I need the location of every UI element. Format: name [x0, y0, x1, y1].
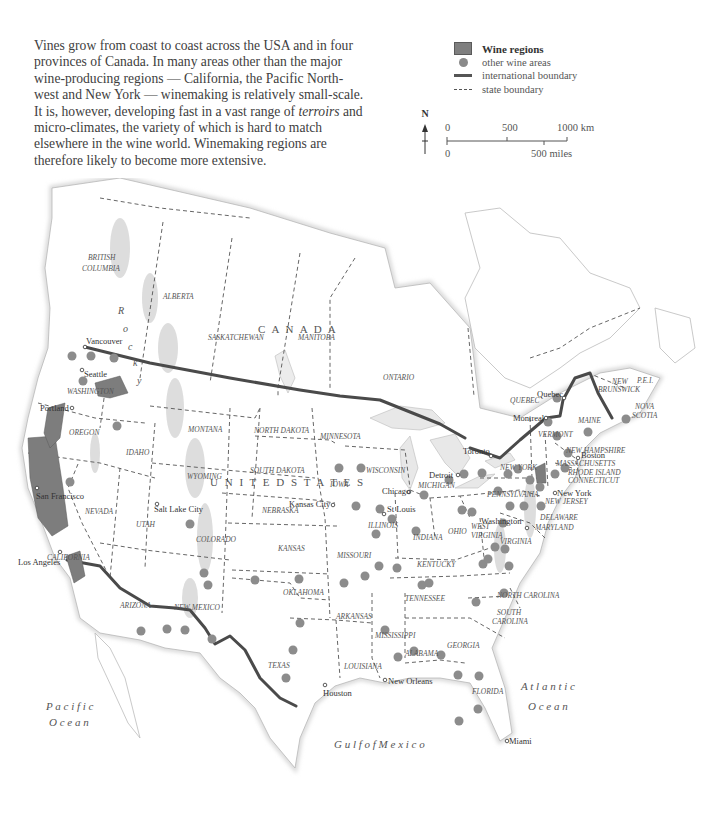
wine-area-dot-icon [459, 58, 468, 67]
state-label: SOUTH [497, 608, 522, 617]
city-marker: Miami [505, 736, 532, 746]
scale-bar-line-icon [445, 134, 575, 148]
city-dot-icon [456, 473, 460, 477]
province-label: SASKATCHEWAN [208, 333, 265, 342]
city-label: Toronto [463, 446, 490, 456]
province-label: MANITOBA [297, 333, 335, 342]
state-label: NEW HAMPSHIRE [565, 446, 626, 455]
scale-mile-500: 500 miles [531, 148, 572, 159]
state-label: MASSACHUSETTS [555, 459, 615, 468]
state-label: GEORGIA [447, 641, 480, 650]
province-label: ONTARIO [383, 373, 415, 382]
city-label: Quebec [537, 389, 563, 399]
state-label: KANSAS [277, 544, 305, 553]
legend-label: international boundary [482, 70, 577, 81]
city-marker: Portland [40, 403, 74, 413]
legend-label: state boundary [482, 84, 544, 95]
state-label: VIRGINIA [471, 531, 503, 540]
north-america-wine-map: VancouverSeattlePortlandSan FranciscoLos… [0, 178, 704, 830]
legend-item-other-wine-areas: other wine areas [452, 56, 577, 70]
province-label: BRITISH [88, 253, 116, 262]
state-label: MAINE [577, 416, 601, 425]
city-dot-icon [382, 512, 386, 516]
state-label: CAROLINA [492, 617, 528, 626]
state-label: MICHIGAN [417, 481, 456, 490]
city-marker: Montreal [513, 413, 548, 423]
rocky-mountains-label: o [123, 323, 128, 334]
state-label: VERMONT [538, 430, 573, 439]
rocky-mountains-label: R [117, 305, 124, 316]
state-label: ALABAMA [404, 649, 439, 658]
state-label: ARKANSAS [335, 612, 372, 621]
state-label: LOUISIANA [343, 662, 382, 671]
city-label: Montreal [513, 413, 545, 423]
city-dot-icon [35, 486, 39, 490]
state-label: ILLINOIS [367, 521, 398, 530]
state-label: CALIFORNIA [47, 553, 90, 562]
province-label: NOVA [634, 402, 654, 411]
state-label: WASHINGTON [67, 387, 115, 396]
state-label: IOWA [329, 480, 349, 489]
city-label: Seattle [84, 369, 107, 379]
state-label: WEST [471, 522, 491, 531]
state-label: FLORIDA [471, 687, 504, 696]
state-label: MISSOURI [336, 551, 372, 560]
state-label: OREGON [69, 428, 100, 437]
rocky-mountains-label: y [136, 375, 142, 386]
state-label: MINNESOTA [319, 432, 361, 441]
city-label: St Louis [387, 504, 416, 514]
state-label: WISCONSIN [366, 466, 406, 475]
city-marker: Seattle [80, 368, 107, 379]
province-label: P.E.I. [636, 376, 653, 385]
state-label: NEW YORK [499, 463, 538, 472]
wine-region-swatch-icon [454, 42, 472, 55]
scale-km-500: 500 [502, 122, 518, 133]
state-boundary-line-icon [454, 89, 472, 90]
state-label: NEW MEXICO [173, 603, 221, 612]
province-label: BRUNSWICK [598, 385, 641, 394]
intro-italic-terroirs: terroirs [298, 104, 339, 119]
legend-item-state-boundary: state boundary [452, 83, 577, 97]
city-label: Vancouver [86, 336, 123, 346]
state-label: KENTUCKY [416, 560, 456, 569]
state-label: OHIO [448, 527, 467, 536]
state-label: CONNECTICUT [568, 476, 620, 485]
state-label: WYOMING [187, 472, 223, 481]
state-label: NEVADA [84, 507, 114, 516]
state-label: OKLAHOMA [283, 588, 324, 597]
state-label: NORTH CAROLINA [496, 591, 560, 600]
scale-bar: 0 500 1000 km 0 500 miles [445, 122, 605, 172]
water-body-label: G u l f o f M e x i c o [334, 738, 425, 750]
scale-mile-0: 0 [445, 148, 450, 159]
city-dot-icon [331, 503, 335, 507]
state-label: MONTANA [187, 425, 223, 434]
city-dot-icon [383, 678, 387, 682]
state-label: TEXAS [268, 661, 290, 670]
province-label: ALBERTA [162, 292, 194, 301]
water-body-label: O c e a n [49, 716, 89, 728]
rocky-mountains-label: k [133, 357, 138, 368]
state-label: SOUTH DAKOTA [250, 466, 305, 475]
city-marker: Chicago [382, 486, 411, 496]
state-label: PENNSYLVANIA [486, 490, 539, 499]
city-marker: Salt Lake City [154, 502, 204, 514]
state-label: TENNESSEE [405, 594, 445, 603]
legend-label: Wine regions [482, 43, 544, 55]
city-dot-icon [544, 416, 548, 420]
state-label: UTAH [136, 520, 156, 529]
city-label: Salt Lake City [154, 504, 204, 514]
legend-label: other wine areas [482, 57, 551, 68]
city-label: Chicago [382, 486, 410, 496]
north-arrow-icon: N [418, 108, 432, 156]
city-marker: New Orleans [383, 676, 432, 686]
city-dot-icon [323, 683, 327, 687]
state-label: MARYLAND [534, 523, 574, 532]
international-boundary-line-icon [454, 74, 472, 77]
state-label: MISSISSIPPI [374, 631, 416, 640]
water-body-label: P a c i f i c [45, 700, 94, 712]
legend-item-wine-regions: Wine regions [452, 42, 577, 56]
map-legend: Wine regions other wine areas internatio… [452, 42, 577, 96]
city-label: Miami [509, 736, 532, 746]
city-label: Houston [323, 688, 353, 698]
state-label: IDAHO [125, 448, 150, 457]
